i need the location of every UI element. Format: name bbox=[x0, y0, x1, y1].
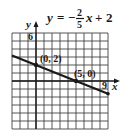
title-equals: = bbox=[57, 10, 64, 25]
coordinate-plane: y = − 2 5 x + 2 y x 6 9 (0, 2) (5, 0) bbox=[0, 0, 127, 134]
x-axis-label: x bbox=[111, 80, 118, 92]
title-lhs: y bbox=[45, 10, 53, 25]
title-plus: + bbox=[95, 10, 102, 25]
line-endpoint bbox=[106, 92, 110, 96]
title-numerator: 2 bbox=[77, 7, 82, 18]
chart-title: y = − 2 5 x + 2 bbox=[45, 7, 113, 30]
data-point bbox=[74, 79, 78, 83]
point-label-0-2: (0, 2) bbox=[40, 53, 62, 65]
x-tick-label-9: 9 bbox=[102, 80, 107, 91]
data-point bbox=[34, 63, 38, 67]
title-sign: − bbox=[68, 10, 75, 25]
title-denominator: 5 bbox=[77, 19, 82, 30]
title-constant: 2 bbox=[106, 10, 113, 25]
y-tick-label-6: 6 bbox=[28, 31, 33, 42]
title-var: x bbox=[85, 10, 93, 25]
point-label-5-0: (5, 0) bbox=[74, 68, 96, 80]
y-axis-label: y bbox=[24, 18, 31, 30]
y-axis-arrow-icon bbox=[34, 21, 39, 27]
